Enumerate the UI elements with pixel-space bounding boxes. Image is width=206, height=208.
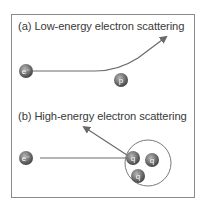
electron-trajectory-a [33, 37, 166, 71]
panel-b-scattering: e⁻ q q q [19, 127, 171, 186]
electron-label-b: e⁻ [22, 154, 30, 163]
panel-a-scattering: e⁻ p [19, 37, 166, 87]
proton-particle: p [114, 73, 128, 87]
quark-3: q [131, 169, 145, 183]
svg-text:q: q [131, 154, 135, 163]
electron-particle-a: e⁻ [19, 64, 33, 78]
scattered-electron-arrow [84, 127, 130, 157]
svg-text:q: q [136, 172, 140, 181]
scattering-diagram: e⁻ p e⁻ q q q [0, 0, 206, 208]
proton-label: p [119, 76, 124, 85]
electron-label-a: e⁻ [22, 67, 30, 76]
svg-text:q: q [150, 156, 154, 165]
electron-particle-b: e⁻ [19, 151, 33, 165]
quark-1: q [126, 151, 140, 165]
quark-2: q [145, 153, 159, 167]
